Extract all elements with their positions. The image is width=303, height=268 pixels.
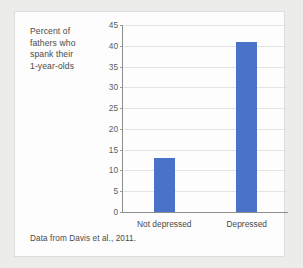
y-axis-tick-label: 25	[109, 103, 118, 113]
y-axis-tick-mark	[120, 150, 123, 151]
y-axis-tick-label: 45	[109, 20, 118, 30]
y-axis-tick-mark	[120, 25, 123, 26]
plot-area: 051015202530354045 Not depressedDepresse…	[123, 25, 288, 212]
figure-card: Percent of fathers who spank their 1-yea…	[14, 11, 285, 257]
y-axis-tick-mark	[120, 170, 123, 171]
y-axis-tick-label: 40	[109, 41, 118, 51]
gridline	[123, 150, 288, 151]
y-axis-caption-line-2: fathers who	[30, 38, 108, 50]
y-axis-tick-label: 10	[109, 165, 118, 175]
y-axis-tick-mark	[120, 129, 123, 130]
gridline	[123, 25, 288, 26]
y-axis-tick-mark	[120, 87, 123, 88]
gridline	[123, 46, 288, 47]
y-axis-tick-label: 35	[109, 62, 118, 72]
y-axis-tick-label: 30	[109, 82, 118, 92]
y-axis-tick-label: 5	[113, 186, 118, 196]
y-axis-tick-mark	[120, 191, 123, 192]
gridline	[123, 129, 288, 130]
y-axis-tick-label: 20	[109, 124, 118, 134]
bar	[154, 158, 175, 212]
bar	[236, 42, 257, 212]
y-axis-caption-line-4: 1-year-olds	[30, 61, 108, 73]
y-axis-tick-mark	[120, 212, 123, 213]
gridline	[123, 108, 288, 109]
y-axis-tick-label: 0	[113, 207, 118, 217]
y-axis-tick-label: 15	[109, 145, 118, 155]
x-axis-category-label: Depressed	[226, 219, 267, 229]
x-axis-category-label: Not depressed	[137, 219, 191, 229]
y-axis-tick-mark	[120, 108, 123, 109]
y-axis-caption-line-3: spank their	[30, 49, 108, 61]
source-note: Data from Davis et al., 2011.	[30, 234, 136, 243]
y-axis-tick-mark	[120, 46, 123, 47]
gridline	[123, 87, 288, 88]
x-axis-line	[122, 212, 288, 213]
y-axis-caption: Percent of fathers who spank their 1-yea…	[30, 26, 108, 72]
y-axis-caption-line-1: Percent of	[30, 26, 108, 38]
gridline	[123, 67, 288, 68]
y-axis-tick-mark	[120, 67, 123, 68]
gridline	[123, 191, 288, 192]
gridline	[123, 170, 288, 171]
y-axis-line	[122, 25, 123, 212]
screenshot-root: Percent of fathers who spank their 1-yea…	[0, 0, 303, 268]
